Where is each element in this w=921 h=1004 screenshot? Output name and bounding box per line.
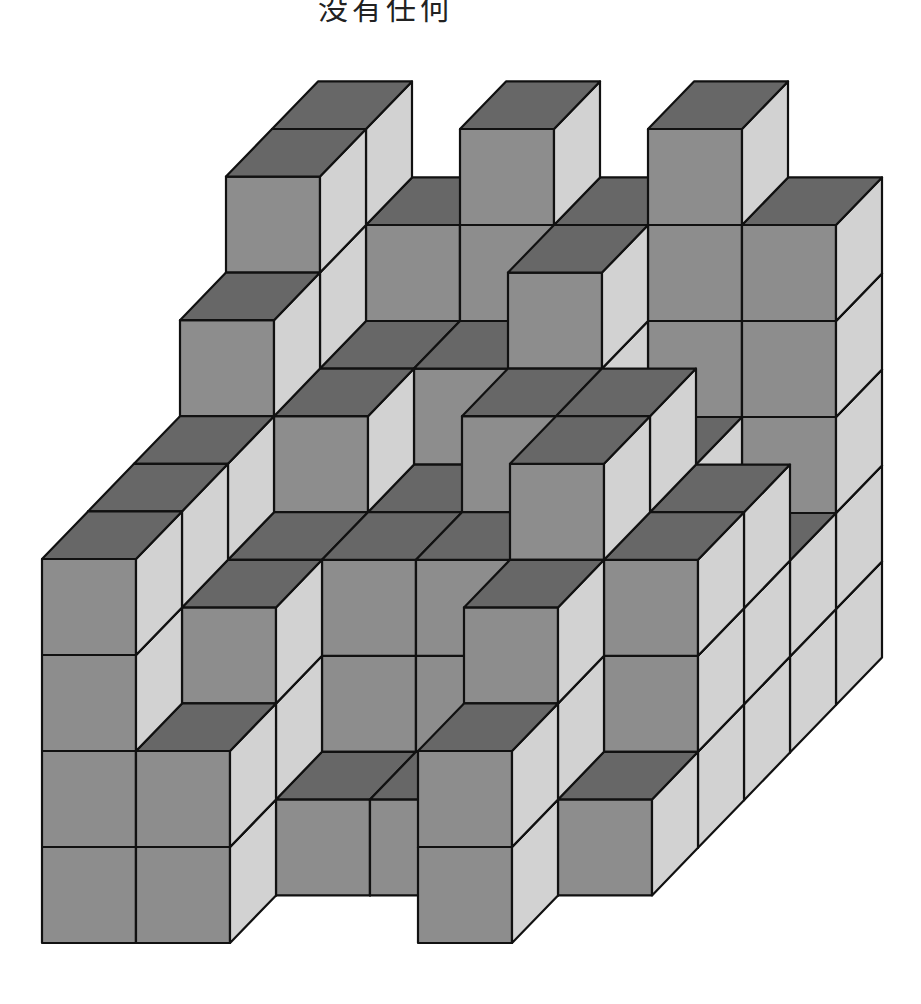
cube-front-face <box>558 799 652 895</box>
cube-front-face <box>418 847 512 943</box>
cube-front-face <box>508 273 602 369</box>
cube-front-face <box>322 560 416 656</box>
cube-front-face <box>182 607 276 703</box>
cube-front-face <box>180 320 274 416</box>
cube-front-face <box>742 321 836 417</box>
cube-front-face <box>322 656 416 752</box>
cube-front-face <box>604 560 698 656</box>
cube-front-face <box>136 847 230 943</box>
cube-front-face <box>42 559 136 655</box>
cube-stack-figure <box>0 0 921 1004</box>
cube-front-face <box>42 751 136 847</box>
cube-front-face <box>648 129 742 225</box>
cube-front-face <box>648 225 742 321</box>
cube-front-face <box>604 656 698 752</box>
cube-group <box>42 81 882 943</box>
cube-front-face <box>742 225 836 321</box>
cube-front-face <box>226 177 320 273</box>
cube-front-face <box>274 416 368 512</box>
cube-front-face <box>42 655 136 751</box>
cube-front-face <box>136 751 230 847</box>
cube-front-face <box>418 751 512 847</box>
cube-front-face <box>510 464 604 560</box>
cube-front-face <box>464 607 558 703</box>
cube-front-face <box>460 129 554 225</box>
cube-front-face <box>366 225 460 321</box>
cube-front-face <box>42 847 136 943</box>
cube-front-face <box>276 799 370 895</box>
